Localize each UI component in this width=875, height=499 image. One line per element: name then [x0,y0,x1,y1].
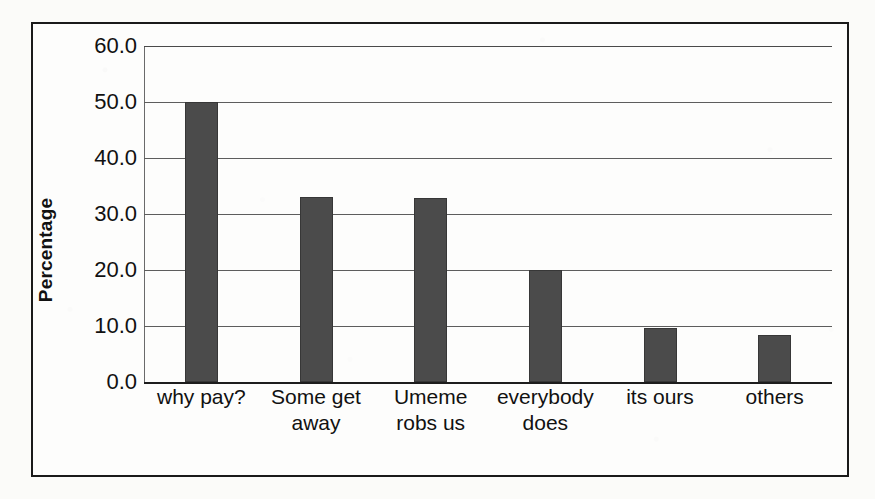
x-tick-label: Some get away [259,384,374,436]
x-tick-label: Umeme robs us [373,384,488,436]
y-tick-label-20.0: 20.0 [94,257,137,283]
y-tick-label-40.0: 40.0 [94,145,137,171]
bar[interactable] [414,198,447,382]
x-tick-label: why pay? [144,384,259,410]
bars-layer [144,46,832,382]
y-tick-label-60.0: 60.0 [94,33,137,59]
bar[interactable] [529,270,562,382]
plot-region [144,46,832,382]
x-tick-label: its ours [603,384,718,410]
y-tick-label-50.0: 50.0 [94,89,137,115]
y-axis-title: Percentage [31,24,61,475]
bar[interactable] [300,197,333,382]
y-tick-label-0.0: 0.0 [106,369,137,395]
x-tick-label: everybody does [488,384,603,436]
y-axis-title-text: Percentage [35,197,57,301]
bar[interactable] [185,102,218,382]
bar-chart: Percentage 60.050.040.030.020.010.00.0 w… [33,24,847,475]
bar[interactable] [644,328,677,382]
x-tick-label: others [717,384,832,410]
x-axis-tick-labels: why pay?Some get awayUmeme robs useveryb… [144,384,832,454]
y-tick-label-10.0: 10.0 [94,313,137,339]
bar[interactable] [758,335,791,382]
y-axis-tick-labels: 60.050.040.030.020.010.00.0 [59,24,143,475]
figure-frame: Percentage 60.050.040.030.020.010.00.0 w… [31,22,849,477]
y-tick-label-30.0: 30.0 [94,201,137,227]
